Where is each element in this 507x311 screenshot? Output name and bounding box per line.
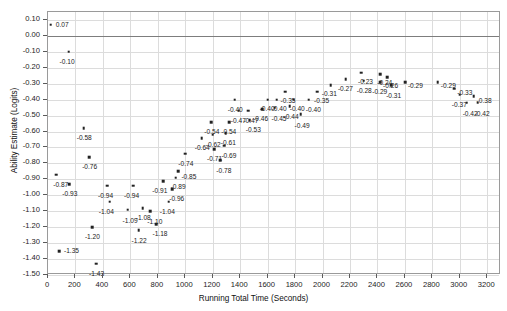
y-tick-mark	[43, 99, 47, 100]
grid-line-horizontal	[48, 20, 499, 21]
data-point	[82, 127, 85, 130]
data-point	[155, 223, 158, 226]
zero-reference-line	[48, 36, 499, 37]
grid-line-horizontal	[48, 84, 499, 85]
x-tick-label: 3200	[466, 281, 506, 289]
y-tick-label: -0.60	[0, 127, 40, 135]
data-point-label: -0.44	[284, 114, 299, 121]
data-point	[248, 119, 251, 122]
data-point-label: -0.62	[206, 142, 221, 149]
x-tick-mark	[267, 274, 268, 278]
x-tick-mark	[349, 274, 350, 278]
data-point	[390, 84, 393, 87]
data-point	[362, 79, 365, 82]
data-point	[91, 226, 94, 229]
plot-area: 0.07-0.10-0.58-0.87-0.93-1.20-1.35-1.43-…	[47, 11, 500, 274]
data-point-label: -1.18	[152, 231, 167, 238]
data-point-label: -0.89	[171, 184, 186, 191]
grid-line-horizontal	[48, 243, 499, 244]
y-tick-mark	[43, 83, 47, 84]
x-axis-title: Running Total Time (Seconds)	[0, 294, 507, 303]
data-point	[292, 98, 295, 101]
data-point	[360, 71, 363, 74]
data-point-label: -1.22	[132, 238, 147, 245]
grid-line-horizontal	[48, 163, 499, 164]
data-point	[141, 207, 144, 210]
y-tick-mark	[43, 35, 47, 36]
data-point-label: -0.96	[169, 196, 184, 203]
data-point	[275, 98, 278, 101]
y-tick-mark	[43, 178, 47, 179]
data-point	[379, 81, 382, 84]
x-tick-mark	[184, 274, 185, 278]
x-tick-mark	[459, 274, 460, 278]
grid-line-horizontal	[48, 227, 499, 228]
data-point	[288, 105, 291, 108]
x-tick-mark	[431, 274, 432, 278]
data-point	[308, 98, 311, 101]
data-point-label: -0.49	[295, 123, 310, 130]
y-tick-mark	[43, 194, 47, 195]
y-tick-label: -1.20	[0, 222, 40, 230]
data-point	[437, 81, 440, 84]
data-point	[132, 184, 135, 187]
data-point	[58, 250, 61, 253]
x-tick-mark	[212, 274, 213, 278]
y-tick-mark	[43, 162, 47, 163]
data-point	[459, 94, 462, 97]
y-tick-mark	[43, 51, 47, 52]
data-point-label: -0.23	[358, 79, 373, 86]
data-point-label: -0.93	[62, 191, 77, 198]
data-point-label: -0.54	[204, 129, 219, 136]
data-point-label: -0.76	[82, 164, 97, 171]
grid-line-horizontal	[48, 147, 499, 148]
data-point	[404, 81, 407, 84]
data-point	[162, 180, 165, 183]
data-point-label: -1.20	[85, 234, 100, 241]
data-point-label: -0.87	[53, 182, 68, 189]
data-point-label: -0.29	[408, 83, 423, 90]
y-tick-label: -1.30	[0, 238, 40, 246]
y-tick-label: -0.70	[0, 142, 40, 150]
data-point-label: -0.40	[290, 106, 305, 113]
y-tick-mark	[43, 258, 47, 259]
data-point-label: -0.10	[60, 59, 75, 66]
data-point	[237, 110, 240, 113]
data-point	[210, 121, 213, 124]
grid-line-horizontal	[48, 179, 499, 180]
data-point-label: -0.31	[386, 93, 401, 100]
data-point	[219, 159, 222, 162]
data-point-label: -0.53	[246, 127, 261, 134]
x-tick-mark	[47, 274, 48, 278]
data-point	[266, 98, 269, 101]
y-tick-label: -0.80	[0, 158, 40, 166]
grid-line-horizontal	[48, 259, 499, 260]
y-tick-label: -0.30	[0, 79, 40, 87]
data-point-label: -0.27	[338, 86, 353, 93]
data-point	[453, 87, 456, 90]
y-tick-label: -1.10	[0, 206, 40, 214]
x-tick-mark	[157, 274, 158, 278]
data-point	[126, 208, 129, 211]
data-point-label: -0.69	[221, 153, 236, 160]
data-point-label: 0.07	[56, 22, 69, 29]
data-point	[108, 200, 111, 203]
data-point-label: -0.94	[98, 193, 113, 200]
data-point-label: -0.91	[152, 188, 167, 195]
data-point	[316, 90, 319, 93]
y-tick-mark	[43, 226, 47, 227]
data-point-label: -0.74	[178, 161, 193, 168]
y-tick-label: 0.00	[0, 31, 40, 39]
data-point	[137, 229, 140, 232]
data-point	[49, 23, 52, 26]
data-point	[476, 102, 479, 105]
data-point	[149, 210, 152, 213]
y-tick-label: -0.10	[0, 47, 40, 55]
x-tick-mark	[102, 274, 103, 278]
y-tick-mark	[43, 242, 47, 243]
y-tick-mark	[43, 115, 47, 116]
data-point	[184, 153, 187, 156]
data-point	[67, 51, 70, 54]
data-point	[55, 173, 58, 176]
data-point-label: -0.28	[357, 88, 372, 95]
